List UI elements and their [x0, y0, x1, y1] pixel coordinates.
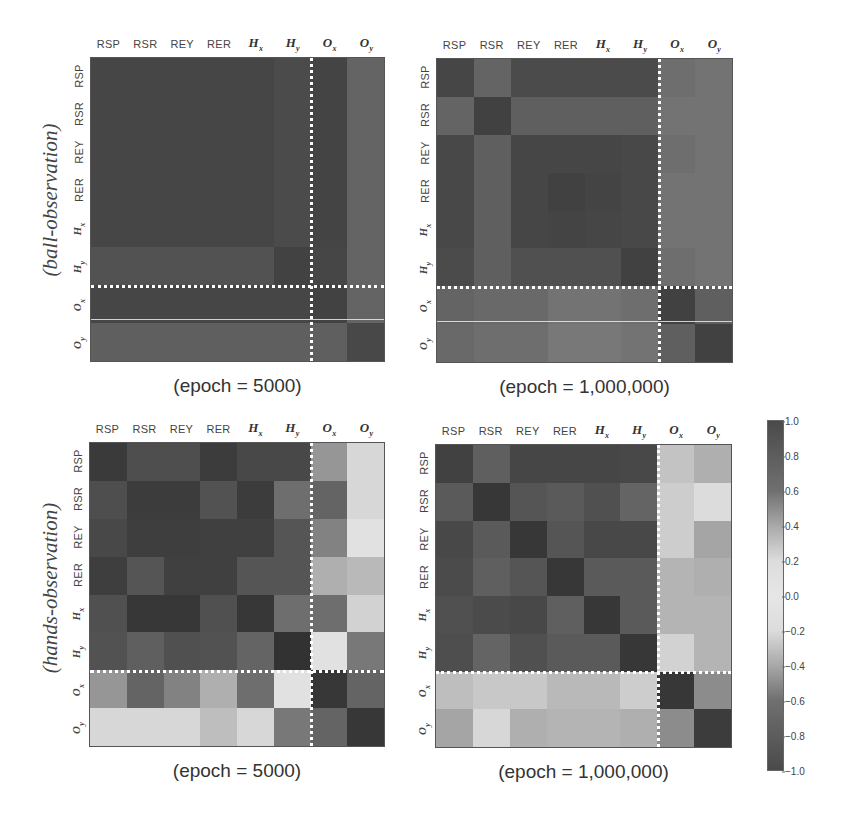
- heatmap-cell: [311, 210, 348, 248]
- heatmap-cell: [274, 670, 311, 708]
- heatmap-cell: [437, 97, 474, 135]
- heatmap-cell: [91, 210, 128, 248]
- heatmap-cell: [90, 708, 127, 746]
- row-label: Hy: [415, 634, 433, 672]
- colorbar-tick: −0.2: [785, 626, 805, 637]
- heatmap-cell: [585, 135, 622, 173]
- heatmap-cell: [548, 59, 585, 97]
- column-label: Hx: [237, 420, 274, 438]
- heatmap-cell: [657, 596, 694, 634]
- row-label: Hx: [69, 595, 87, 633]
- separator-horizontal: [90, 670, 384, 673]
- colorbar-tick: 0.2: [785, 556, 799, 567]
- column-label: RSR: [472, 425, 509, 437]
- heatmap-cell: [621, 135, 658, 173]
- heatmap-cell: [347, 58, 384, 96]
- heatmap-cell: [585, 59, 622, 97]
- heatmap-cell: [274, 172, 311, 210]
- heatmap-cell: [584, 596, 621, 634]
- heatmap-cell: [547, 634, 584, 672]
- heatmap-cell: [237, 481, 274, 519]
- heatmap-cell: [164, 323, 201, 361]
- heatmap-cell: [347, 210, 384, 248]
- heatmap-cell: [694, 709, 731, 747]
- heatmap-cell: [201, 96, 238, 134]
- row-label: RER: [416, 172, 434, 210]
- heatmap-cell: [620, 521, 657, 559]
- heatmap-cell: [164, 595, 201, 633]
- column-label: RER: [201, 38, 238, 50]
- colorbar-tick: −0.8: [785, 731, 805, 742]
- heatmap-cell: [620, 596, 657, 634]
- heatmap-cell: [510, 558, 547, 596]
- heatmap-cell: [548, 173, 585, 211]
- row-label: REY: [415, 520, 433, 558]
- heatmap-cell: [347, 247, 384, 285]
- heatmap-cell: [548, 211, 585, 249]
- row-label: REY: [69, 518, 87, 556]
- heatmap-cell: [347, 172, 384, 210]
- heatmap-cell: [657, 445, 694, 483]
- panel-caption: (epoch = 5000): [90, 375, 385, 397]
- heatmap-cell: [347, 519, 384, 557]
- row-label: Hy: [416, 249, 434, 287]
- heatmap-cell: [164, 670, 201, 708]
- heatmap-cell: [237, 519, 274, 557]
- row-label: Hx: [416, 211, 434, 249]
- heatmap-cell: [164, 247, 201, 285]
- heatmap-cell: [473, 596, 510, 634]
- heatmap-cell: [311, 172, 348, 210]
- heatmap-cell: [128, 210, 165, 248]
- heatmap-cell: [473, 521, 510, 559]
- heatmap-cell: [510, 709, 547, 747]
- heatmap-cell: [237, 557, 274, 595]
- heatmap-cell: [200, 632, 237, 670]
- heatmap-cell: [511, 248, 548, 286]
- heatmap-cell: [311, 481, 348, 519]
- heatmap-cell: [694, 634, 731, 672]
- heatmap-cell: [164, 210, 201, 248]
- row-label: Ox: [69, 671, 87, 709]
- panel-caption: (epoch = 1,000,000): [436, 376, 733, 398]
- separator-vertical: [310, 58, 313, 361]
- heatmap-cell: [311, 285, 348, 323]
- heatmap-cell: [274, 632, 311, 670]
- row-label: Oy: [416, 325, 434, 363]
- heatmap-cell: [694, 483, 731, 521]
- heatmap-cell: [547, 445, 584, 483]
- heatmap-cell: [511, 97, 548, 135]
- heatmap-cell: [548, 97, 585, 135]
- heatmap-cell: [347, 443, 384, 481]
- heatmap-cell: [311, 58, 348, 96]
- heatmap-cell: [274, 96, 311, 134]
- heatmap-cell: [694, 596, 731, 634]
- heatmap-cell: [510, 445, 547, 483]
- heatmap-cell: [695, 59, 732, 97]
- heatmap-cell: [474, 135, 511, 173]
- heatmap-cell: [274, 708, 311, 746]
- side-label-hands-observation: (hands-observation): [38, 503, 63, 673]
- row-label: RER: [415, 558, 433, 596]
- heatmap-cell: [311, 247, 348, 285]
- colorbar-tick: 0.4: [785, 521, 799, 532]
- heatmap-cell: [238, 210, 275, 248]
- heatmap-cell: [311, 323, 348, 361]
- column-label: RER: [200, 423, 237, 435]
- row-label: Ox: [70, 286, 88, 324]
- heatmap-cell: [200, 708, 237, 746]
- heatmap-cell: [274, 481, 311, 519]
- separator-vertical: [310, 443, 313, 746]
- heatmap-cell: [237, 443, 274, 481]
- heatmap-cell: [548, 135, 585, 173]
- heatmap-cell: [238, 172, 275, 210]
- heatmap-cell: [585, 211, 622, 249]
- row-label: Hy: [69, 633, 87, 671]
- row-label: RSP: [415, 444, 433, 482]
- separator-horizontal: [91, 285, 384, 288]
- heatmap-cell: [658, 59, 695, 97]
- heatmap-cell: [311, 96, 348, 134]
- row-label: Hy: [70, 248, 88, 286]
- row-label: Oy: [70, 324, 88, 362]
- heatmap-cell: [437, 135, 474, 173]
- colorbar-tick: 1.0: [785, 416, 799, 427]
